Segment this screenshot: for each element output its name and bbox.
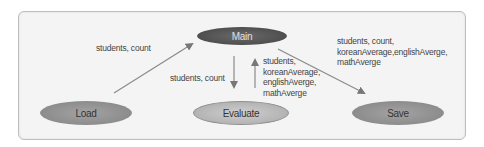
edge-label-load-main: students, count (96, 43, 151, 54)
node-save: Save (352, 101, 444, 125)
node-save-label: Save (387, 108, 409, 119)
edge-label-evaluate-main: students, koreanAverage, englishAverge, … (263, 56, 320, 98)
node-evaluate: Evaluate (193, 101, 289, 125)
node-load: Load (40, 101, 132, 125)
node-main-label: Main (232, 31, 252, 42)
node-evaluate-label: Evaluate (223, 108, 260, 119)
edge-label-main-evaluate: students, count (170, 73, 225, 84)
node-main: Main (197, 27, 287, 45)
node-load-label: Load (75, 108, 96, 119)
edge-label-main-save: students, count, koreanAverage,englishAv… (337, 36, 447, 68)
